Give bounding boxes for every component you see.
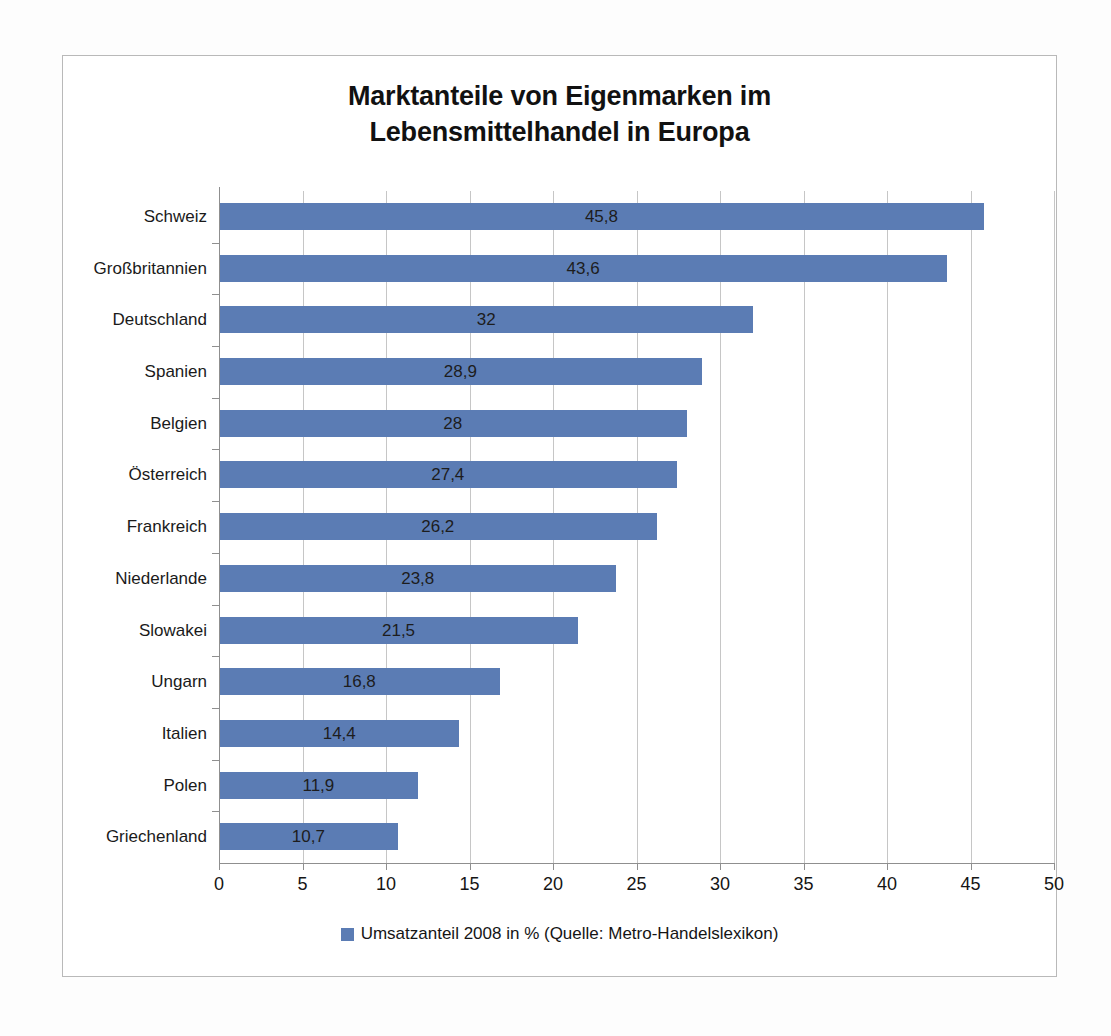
value-axis-tick	[720, 863, 721, 870]
bar-value-label: 27,4	[431, 461, 464, 488]
gridline	[1054, 191, 1055, 863]
category-axis-tick	[212, 811, 220, 812]
bar-row: 11,9	[219, 760, 1054, 812]
category-label: Slowakei	[139, 617, 207, 644]
bar-row: 27,4	[219, 449, 1054, 501]
value-axis-tick	[1054, 863, 1055, 870]
category-axis-labels: SchweizGroßbritannienDeutschlandSpanienB…	[63, 191, 207, 863]
category-axis-tick	[212, 294, 220, 295]
category-label: Schweiz	[144, 203, 207, 230]
category-axis-tick	[212, 605, 220, 606]
value-axis-tick	[804, 863, 805, 870]
value-axis-tick-label: 50	[1044, 874, 1064, 895]
category-label: Österreich	[129, 461, 207, 488]
bar-value-label: 16,8	[343, 668, 376, 695]
category-axis-tick	[212, 656, 220, 657]
bar-row: 16,8	[219, 656, 1054, 708]
bar-row: 21,5	[219, 605, 1054, 657]
value-axis-tick-label: 0	[214, 874, 224, 895]
value-axis-tick-label: 35	[793, 874, 813, 895]
bar-row: 10,7	[219, 811, 1054, 863]
bar-row: 32	[219, 294, 1054, 346]
category-label: Niederlande	[115, 565, 207, 592]
bar-row: 28	[219, 398, 1054, 450]
bar-value-label: 26,2	[421, 513, 454, 540]
value-axis-tick	[887, 863, 888, 870]
category-axis-tick	[212, 760, 220, 761]
category-axis-tick	[212, 243, 220, 244]
category-label: Italien	[162, 720, 207, 747]
value-axis-labels: 05101520253035404550	[219, 874, 1054, 904]
category-label: Ungarn	[151, 668, 207, 695]
chart-frame: Marktanteile von Eigenmarken im Lebensmi…	[62, 55, 1057, 977]
value-axis-tick-label: 25	[626, 874, 646, 895]
category-axis-tick	[212, 346, 220, 347]
bar-row: 43,6	[219, 243, 1054, 295]
chart-legend: Umsatzanteil 2008 in % (Quelle: Metro-Ha…	[63, 924, 1056, 944]
category-label: Großbritannien	[94, 255, 207, 282]
value-axis-tick	[386, 863, 387, 870]
legend-swatch-icon	[341, 928, 354, 941]
bar-value-label: 11,9	[302, 772, 334, 799]
bar-row: 45,8	[219, 191, 1054, 243]
category-axis-tick	[212, 449, 220, 450]
value-axis-tick	[553, 863, 554, 870]
value-axis-tick-label: 40	[877, 874, 897, 895]
value-axis-tick-label: 15	[459, 874, 479, 895]
value-axis-tick-label: 20	[543, 874, 563, 895]
category-label: Spanien	[145, 358, 207, 385]
chart-title-line-2: Lebensmittelhandel in Europa	[63, 114, 1056, 150]
value-axis-tick	[219, 863, 220, 870]
category-axis-tick	[212, 553, 220, 554]
value-axis-tick	[637, 863, 638, 870]
category-axis-tick	[212, 501, 220, 502]
category-label: Frankreich	[127, 513, 207, 540]
value-axis-tick-label: 5	[297, 874, 307, 895]
bar-value-label: 28,9	[444, 358, 477, 385]
value-axis-tick	[303, 863, 304, 870]
page-background: Marktanteile von Eigenmarken im Lebensmi…	[0, 0, 1111, 1036]
bar-row: 14,4	[219, 708, 1054, 760]
bar-value-label: 23,8	[401, 565, 434, 592]
value-axis-tick-label: 10	[376, 874, 396, 895]
bar-value-label: 45,8	[585, 203, 618, 230]
category-label: Griechenland	[106, 823, 207, 850]
bar-value-label: 10,7	[292, 823, 325, 850]
bar-row: 23,8	[219, 553, 1054, 605]
legend-label: Umsatzanteil 2008 in % (Quelle: Metro-Ha…	[361, 924, 779, 944]
value-axis-tick-label: 30	[710, 874, 730, 895]
bar-row: 28,9	[219, 346, 1054, 398]
bar-value-label: 28	[443, 410, 462, 437]
category-axis-tick	[212, 398, 220, 399]
category-label: Polen	[164, 772, 207, 799]
category-label: Belgien	[150, 410, 207, 437]
bar-value-label: 32	[477, 306, 496, 333]
value-axis-tick-label: 45	[960, 874, 980, 895]
value-axis-tick	[971, 863, 972, 870]
category-axis-tick	[212, 708, 220, 709]
bar-value-label: 43,6	[567, 255, 600, 282]
value-axis-tick	[470, 863, 471, 870]
bar-row: 26,2	[219, 501, 1054, 553]
chart-title: Marktanteile von Eigenmarken im Lebensmi…	[63, 78, 1056, 150]
category-label: Deutschland	[112, 306, 207, 333]
bar-value-label: 21,5	[382, 617, 415, 644]
bar-value-label: 14,4	[323, 720, 356, 747]
category-axis-line	[219, 187, 220, 867]
chart-title-line-1: Marktanteile von Eigenmarken im	[63, 78, 1056, 114]
plot-area: 45,843,63228,92827,426,223,821,516,814,4…	[219, 191, 1054, 863]
